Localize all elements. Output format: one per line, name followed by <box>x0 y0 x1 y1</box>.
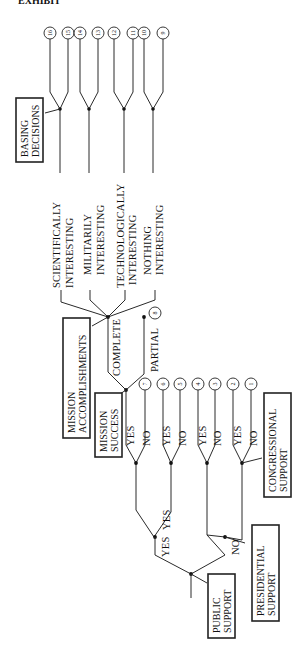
label-technologically: TECHNOLOGICALLY <box>115 183 126 288</box>
outcome-7: 7 <box>139 378 151 390</box>
svg-text:8: 8 <box>152 312 158 315</box>
svg-text:NO: NO <box>141 430 152 446</box>
outcome-3: 3 <box>209 378 221 390</box>
outcome-4: 4 <box>192 378 204 390</box>
svg-text:SUPPORT: SUPPORT <box>278 449 289 492</box>
svg-text:YES: YES <box>232 426 243 446</box>
outcome-8: 8 <box>149 307 161 319</box>
svg-text:BASING: BASING <box>19 120 30 157</box>
svg-text:NO: NO <box>177 430 188 446</box>
decision-tree-diagram: EXHIBIT 16 15 14 13 12 11 10 9 BASING DE… <box>0 0 308 652</box>
svg-text:MISSION: MISSION <box>98 411 109 452</box>
svg-text:INTERESTING: INTERESTING <box>154 204 165 275</box>
svg-text:3: 3 <box>212 383 218 386</box>
complete-label: COMPLETE <box>111 319 122 376</box>
svg-text:11: 11 <box>130 30 136 36</box>
svg-text:1: 1 <box>248 383 254 386</box>
svg-text:6: 6 <box>160 383 166 386</box>
outcome-9: 9 <box>157 27 169 39</box>
svg-text:SUPPORT: SUPPORT <box>222 590 233 633</box>
svg-text:YES: YES <box>197 426 208 446</box>
accomplishment-labels: SCIENTIFICALLY INTERESTING MILITARILY IN… <box>51 183 165 288</box>
label-militarily: MILITARILY <box>82 213 93 275</box>
cropped-caption: EXHIBIT <box>18 0 61 6</box>
svg-text:12: 12 <box>111 30 117 36</box>
basing-forks <box>50 39 163 173</box>
outcome-10: 10 <box>138 27 150 39</box>
svg-text:13: 13 <box>95 30 101 36</box>
svg-text:NO: NO <box>212 430 223 446</box>
outcome-15: 15 <box>62 27 74 39</box>
mission-success-box: MISSION SUCCESS <box>95 390 126 457</box>
svg-text:INTERESTING: INTERESTING <box>95 204 106 275</box>
outcome-circles-bottom: 7 6 5 4 3 2 1 <box>139 378 257 390</box>
svg-text:YES: YES <box>161 510 172 530</box>
outcome-5: 5 <box>174 378 186 390</box>
public-support-box: PUBLIC SUPPORT <box>208 574 235 638</box>
svg-text:10: 10 <box>141 30 147 36</box>
svg-text:DECISIONS: DECISIONS <box>30 105 41 157</box>
svg-text:NO: NO <box>248 430 259 446</box>
svg-text:16: 16 <box>47 30 53 36</box>
outcome-14: 14 <box>74 27 86 39</box>
svg-text:5: 5 <box>177 383 183 386</box>
svg-text:INTERESTING: INTERESTING <box>127 214 138 285</box>
outcome-13: 13 <box>92 27 104 39</box>
outcome-16: 16 <box>44 27 56 39</box>
svg-text:ACCOMPLISHMENTS: ACCOMPLISHMENTS <box>77 335 88 433</box>
svg-text:YES: YES <box>160 537 171 557</box>
svg-text:PRESIDENTIAL: PRESIDENTIAL <box>255 545 266 616</box>
mission-accomplishments-box: MISSION ACCOMPLISHMENTS <box>63 318 90 438</box>
svg-text:4: 4 <box>195 383 201 386</box>
outcome-12: 12 <box>108 27 120 39</box>
svg-text:2: 2 <box>230 383 236 386</box>
svg-text:NO: NO <box>230 539 241 555</box>
partial-label: PARTIAL <box>149 328 160 372</box>
outcome-1: 1 <box>245 378 257 390</box>
outcome-2: 2 <box>227 378 239 390</box>
svg-text:SUCCESS: SUCCESS <box>109 409 120 452</box>
label-nothing: NOTHING <box>142 226 153 275</box>
svg-text:15: 15 <box>65 30 71 36</box>
mission-result-split: COMPLETE PARTIAL 8 <box>108 307 161 392</box>
svg-text:INTERESTING: INTERESTING <box>64 217 75 288</box>
svg-text:MISSION: MISSION <box>66 392 77 433</box>
svg-text:CONGRESSIONAL: CONGRESSIONAL <box>267 409 278 492</box>
label-scientifically: SCIENTIFICALLY <box>51 201 62 288</box>
presidential-forks: YES NO <box>136 500 245 555</box>
svg-text:YES: YES <box>125 426 136 446</box>
svg-text:PUBLIC: PUBLIC <box>211 597 222 633</box>
svg-text:SUPPORT: SUPPORT <box>266 573 277 616</box>
outcome-circles-top: 16 15 14 13 12 11 10 9 <box>44 27 169 39</box>
presidential-support-box: PRESIDENTIAL SUPPORT <box>252 525 279 621</box>
congressional-forks: YES NO YES NO YES NO YES NO <box>125 390 259 540</box>
outcome-11: 11 <box>127 27 139 39</box>
svg-text:9: 9 <box>160 32 166 35</box>
svg-text:7: 7 <box>142 383 148 386</box>
svg-text:14: 14 <box>77 30 83 36</box>
outcome-6: 6 <box>157 378 169 390</box>
svg-text:YES: YES <box>161 426 172 446</box>
basing-decisions-box: BASING DECISIONS <box>16 98 60 162</box>
